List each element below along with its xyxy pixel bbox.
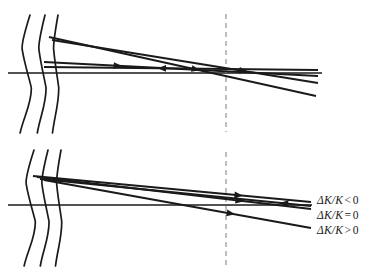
legend-entry-zero: ΔK/K=0 (317, 209, 359, 221)
legend-operator-zero: = (343, 209, 353, 221)
legend-symbol-negative: ΔK/K (317, 194, 343, 206)
ray-negative (33, 176, 311, 202)
lower-ray-diagram (8, 150, 312, 266)
ray-positive-arrowhead (226, 210, 235, 217)
legend-operator-positive: > (343, 224, 353, 236)
wavefront-curve (40, 150, 49, 266)
legend-value-negative: 0 (353, 194, 359, 206)
figure-container: ΔK/K<0 ΔK/K=0 ΔK/K>0 (0, 0, 387, 271)
ray-return (40, 179, 311, 206)
wavefront-curve (20, 15, 31, 133)
legend-value-zero: 0 (353, 209, 359, 221)
ray-lower-b-arrowhead (158, 65, 167, 72)
wavefront-curve (37, 15, 46, 133)
legend-entry-negative: ΔK/K<0 (317, 194, 359, 206)
legend-symbol-zero: ΔK/K (317, 209, 343, 221)
legend-operator-negative: < (343, 194, 353, 206)
ray-middle (52, 40, 318, 83)
legend-entry-positive: ΔK/K>0 (317, 224, 359, 236)
upper-ray-diagram (8, 14, 322, 133)
wavefront-curve (24, 150, 35, 266)
wavefront-curve (53, 15, 59, 133)
svg-content (8, 14, 322, 266)
legend-symbol-positive: ΔK/K (317, 224, 343, 236)
legend-value-positive: 0 (353, 224, 359, 236)
wavefront-curve (56, 150, 62, 266)
